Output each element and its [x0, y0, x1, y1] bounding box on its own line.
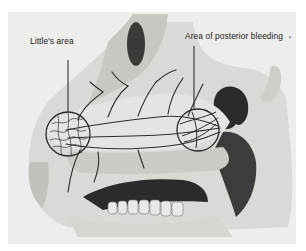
- illustration-plate: [8, 12, 296, 244]
- nasal-anatomy-illustration: [8, 12, 296, 244]
- corner-mark: •: [289, 34, 291, 40]
- posterior-bleeding-label: Area of posterior bleeding: [185, 30, 283, 41]
- littles-area-label: Little's area: [30, 35, 74, 46]
